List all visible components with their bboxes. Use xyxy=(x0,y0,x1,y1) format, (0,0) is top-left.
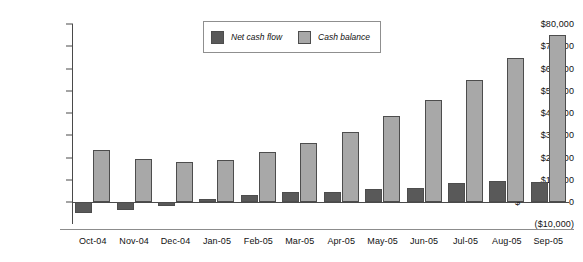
bar-net-cash-flow xyxy=(117,202,134,210)
x-tick-label: Dec-04 xyxy=(161,236,191,246)
dark-gray-swatch-icon xyxy=(211,31,224,44)
bar-cash-balance xyxy=(549,35,566,202)
legend-item-cash-balance: Cash balance xyxy=(298,31,370,44)
x-tick-label: Sep-05 xyxy=(533,236,563,246)
legend-item-net-cash-flow: Net cash flow xyxy=(211,31,282,44)
x-axis-line xyxy=(60,229,574,230)
bar-net-cash-flow xyxy=(448,183,465,202)
bar-net-cash-flow xyxy=(365,189,382,202)
bar-net-cash-flow xyxy=(489,181,506,202)
cash-flow-bar-chart: $80,000$70,000$60,000$50,000$40,000$30,0… xyxy=(0,0,583,262)
bar-cash-balance xyxy=(93,150,110,202)
bar-net-cash-flow xyxy=(531,182,548,202)
plot-area xyxy=(72,24,569,224)
light-gray-swatch-icon xyxy=(298,31,311,44)
bar-cash-balance xyxy=(342,132,359,202)
bar-net-cash-flow xyxy=(282,192,299,202)
x-tick-label: Oct-04 xyxy=(79,236,107,246)
legend-label-net-cash-flow: Net cash flow xyxy=(231,32,282,42)
bar-cash-balance xyxy=(507,58,524,202)
chart-legend: Net cash flow Cash balance xyxy=(203,21,381,53)
bar-net-cash-flow xyxy=(407,188,424,202)
bar-net-cash-flow xyxy=(158,202,175,206)
bar-cash-balance xyxy=(300,143,317,202)
bar-cash-balance xyxy=(383,116,400,202)
bar-net-cash-flow xyxy=(75,202,92,213)
x-tick-label: Feb-05 xyxy=(244,236,273,246)
bar-net-cash-flow xyxy=(241,195,258,202)
bar-cash-balance xyxy=(217,160,234,202)
bar-net-cash-flow xyxy=(199,199,216,202)
bar-cash-balance xyxy=(466,80,483,202)
x-tick-label: Aug-05 xyxy=(492,236,522,246)
x-tick-label: Jul-05 xyxy=(453,236,478,246)
bar-cash-balance xyxy=(135,159,152,202)
legend-label-cash-balance: Cash balance xyxy=(318,32,370,42)
bar-cash-balance xyxy=(176,162,193,202)
x-tick-label: Mar-05 xyxy=(285,236,314,246)
y-tick-value: 0 xyxy=(569,197,574,207)
x-tick-label: Jun-05 xyxy=(410,236,438,246)
x-tick-label: Nov-04 xyxy=(119,236,149,246)
x-tick-label: May-05 xyxy=(367,236,398,246)
bar-net-cash-flow xyxy=(324,192,341,202)
bar-cash-balance xyxy=(425,100,442,202)
x-tick-label: Jan-05 xyxy=(203,236,231,246)
x-tick-label: Apr-05 xyxy=(327,236,355,246)
bar-cash-balance xyxy=(259,152,276,202)
